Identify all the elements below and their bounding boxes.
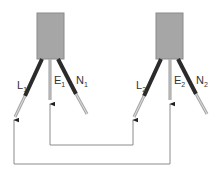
label-neutral-2: N2 [196, 74, 208, 88]
label-earth-1: E1 [54, 74, 65, 88]
connector-l1-e2 [14, 104, 170, 164]
unit-2-box [156, 13, 183, 59]
label-live-2: L2 [136, 79, 146, 93]
wiring-diagram: L1 E1 N1 L2 E2 N2 [0, 0, 222, 171]
unit-1 [15, 13, 87, 117]
unit-1-box [37, 13, 64, 59]
label-neutral-1: N1 [76, 74, 88, 88]
label-earth-2: E2 [174, 74, 185, 88]
label-live-1: L1 [17, 79, 27, 93]
unit-2 [134, 13, 207, 117]
connector-e1-l2 [50, 104, 133, 145]
